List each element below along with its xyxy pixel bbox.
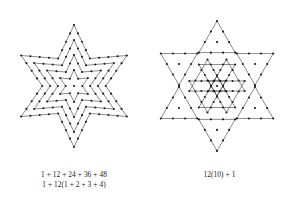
lattice-dot	[36, 77, 38, 79]
left-caption: 1 + 12 + 24 + 36 + 48 1 + 12(1 + 2 + 3 +…	[0, 170, 148, 189]
lattice-dot	[57, 57, 59, 59]
lattice-dot	[232, 69, 234, 71]
lattice-dot	[44, 77, 46, 79]
lattice-dot	[52, 63, 54, 65]
lattice-dot	[48, 113, 50, 115]
right-caption-line-1: 12(10) + 1	[148, 170, 291, 180]
lattice-dot	[160, 53, 162, 55]
lattice-dot	[254, 107, 256, 109]
lattice-dot	[85, 49, 87, 51]
lattice-dot	[42, 107, 44, 109]
lattice-dot	[272, 117, 274, 119]
lattice-dot	[81, 56, 83, 58]
lattice-dot	[242, 107, 244, 109]
lattice-dot	[73, 85, 75, 87]
lattice-dot	[73, 54, 75, 56]
left-caption-line-2: 1 + 12(1 + 2 + 3 + 4)	[0, 180, 148, 190]
lattice-dot	[113, 62, 115, 64]
lattice-dot	[254, 86, 256, 88]
lattice-dot	[65, 71, 67, 73]
lattice-dot	[33, 108, 35, 110]
lattice-dot	[244, 90, 246, 92]
lattice-dot	[198, 106, 200, 108]
lattice-dot	[210, 31, 212, 33]
lattice-dot	[49, 85, 51, 87]
lattice-dot	[184, 117, 186, 119]
lattice-dot	[172, 53, 174, 55]
lattice-dot	[200, 90, 202, 92]
lattice-dot	[117, 55, 119, 57]
lattice-dot	[85, 64, 87, 66]
lattice-dot	[260, 96, 262, 98]
lattice-dot	[172, 74, 174, 76]
lattice-dot	[73, 146, 75, 148]
lattice-dot	[69, 47, 71, 49]
lattice-dot	[172, 117, 174, 119]
lattice-dot	[29, 115, 31, 117]
nested-hexagram-rings-diagram	[0, 0, 148, 168]
lattice-dot	[94, 93, 96, 95]
lattice-dot	[65, 56, 67, 58]
lattice-dot	[210, 52, 212, 54]
lattice-dot	[33, 62, 35, 64]
lattice-dot	[200, 69, 202, 71]
lattice-dot	[77, 62, 79, 64]
lattice-dot	[29, 55, 31, 57]
lattice-dot	[200, 80, 202, 82]
lattice-dot	[59, 77, 61, 79]
lattice-dot	[38, 70, 40, 72]
lattice-dot	[102, 93, 104, 95]
lattice-dot	[65, 129, 67, 131]
lattice-dot	[172, 96, 174, 98]
lattice-dot	[69, 92, 71, 94]
lattice-dot	[39, 56, 41, 58]
lattice-dot	[234, 106, 236, 108]
lattice-dot	[126, 54, 128, 56]
left-caption-line-1: 1 + 12 + 24 + 36 + 48	[0, 170, 148, 180]
lattice-dot	[166, 63, 168, 65]
lattice-dot	[25, 108, 27, 110]
lattice-dot	[113, 108, 115, 110]
lattice-dot	[228, 74, 230, 76]
lattice-dot	[77, 123, 79, 125]
lattice-dot	[206, 111, 208, 113]
lattice-dot	[216, 20, 218, 22]
lattice-dot	[81, 41, 83, 43]
lattice-dot	[56, 70, 58, 72]
lattice-dot	[110, 77, 112, 79]
lattice-dot	[190, 107, 192, 109]
lattice-dot	[89, 112, 91, 114]
lattice-dot	[97, 85, 99, 87]
lattice-dot	[196, 117, 198, 119]
lattice-dot	[248, 117, 250, 119]
lattice-dot	[31, 70, 33, 72]
lattice-dot	[184, 96, 186, 98]
lattice-dot	[115, 100, 117, 102]
lattice-dot	[89, 85, 91, 87]
outline-path	[161, 87, 197, 119]
lattice-dot	[242, 63, 244, 65]
lattice-dot	[219, 101, 221, 103]
lattice-dot	[69, 107, 71, 109]
lattice-dot	[225, 80, 227, 82]
outline-path	[237, 54, 273, 86]
lattice-dot	[117, 115, 119, 117]
lattice-dot	[196, 53, 198, 55]
lattice-dot	[77, 107, 79, 109]
lattice-dot	[94, 63, 96, 65]
lattice-dot	[121, 62, 123, 64]
right-caption: 12(10) + 1	[148, 170, 291, 180]
lattice-dot	[222, 139, 224, 141]
lattice-dot	[222, 31, 224, 33]
lattice-dot	[81, 85, 83, 87]
lattice-dot	[178, 107, 180, 109]
lattice-dot	[103, 63, 105, 65]
lattice-dot	[94, 77, 96, 79]
lattice-dot	[39, 114, 41, 116]
lattice-dot	[204, 74, 206, 76]
lattice-dot	[248, 53, 250, 55]
lattice-dot	[51, 77, 53, 79]
lattice-dot	[73, 39, 75, 41]
lattice-dot	[210, 139, 212, 141]
lattice-dot	[260, 117, 262, 119]
